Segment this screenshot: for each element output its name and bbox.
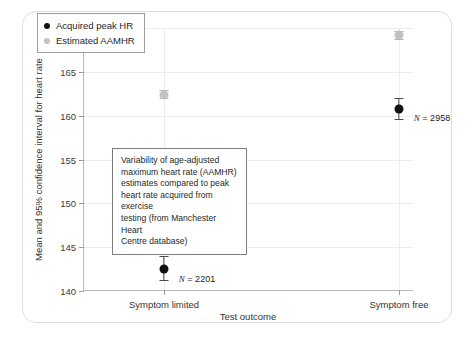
x-axis-tick-label: Symptom limited [129, 299, 199, 310]
y-axis-tick [79, 291, 84, 292]
y-axis-tick-label: 140 [60, 286, 76, 297]
y-axis-tick [79, 72, 84, 73]
y-axis-tick-label: 155 [60, 154, 76, 165]
y-gridline [84, 116, 413, 117]
y-axis-tick-label: 145 [60, 242, 76, 253]
x-axis-tick-label: Symptom free [369, 299, 428, 310]
chart-legend: Acquired peak HR Estimated AAMHR [37, 13, 145, 53]
x-axis-tick [164, 290, 165, 295]
sample-size-label: N = 2958 [414, 113, 450, 123]
legend-label: Estimated AAMHR [56, 34, 135, 47]
annotation-line: heart rate acquired from exercise [121, 190, 238, 213]
annotation-line: Variability of age-adjusted [121, 155, 238, 167]
sample-size-label: N = 2201 [179, 274, 215, 284]
error-bar-cap [395, 98, 404, 99]
y-axis-title-text: Mean and 95% confidence interval for hea… [33, 58, 44, 261]
data-point [160, 90, 169, 99]
error-bar-cap [395, 119, 404, 120]
data-point [395, 31, 404, 40]
error-bar-cap [395, 39, 404, 40]
y-axis-tick [79, 247, 84, 248]
y-gridline [84, 72, 413, 73]
error-bar-cap [160, 256, 169, 257]
chart-figure: Mean and 95% confidence interval for hea… [0, 0, 475, 346]
annotation-box: Variability of age-adjustedmaximum heart… [112, 148, 247, 255]
n-symbol: N [179, 274, 185, 284]
legend-marker-dot-icon [44, 38, 50, 44]
x-axis-tick [399, 290, 400, 295]
y-axis-tick-label: 150 [60, 198, 76, 209]
annotation-line: Centre database) [121, 236, 238, 248]
legend-item-acquired-peak-hr: Acquired peak HR [44, 19, 135, 32]
y-axis-tick [79, 203, 84, 204]
annotation-line: maximum heart rate (AAMHR) [121, 167, 238, 179]
x-gridline [399, 28, 400, 290]
legend-marker-dot-icon [44, 23, 50, 29]
y-axis-tick-label: 165 [60, 66, 76, 77]
y-axis-tick [79, 160, 84, 161]
y-axis-tick [79, 116, 84, 117]
y-axis-title: Mean and 95% confidence interval for hea… [31, 28, 45, 291]
y-axis-tick-label: 160 [60, 110, 76, 121]
error-bar-cap [160, 280, 169, 281]
annotation-line: estimates compared to peak [121, 178, 238, 190]
data-point [160, 265, 169, 274]
legend-label: Acquired peak HR [56, 19, 133, 32]
data-point [395, 104, 404, 113]
x-axis-title: Test outcome [83, 311, 413, 322]
n-symbol: N [414, 113, 420, 123]
legend-item-estimated-aamhr: Estimated AAMHR [44, 34, 135, 47]
annotation-line: testing (from Manchester Heart [121, 213, 238, 236]
